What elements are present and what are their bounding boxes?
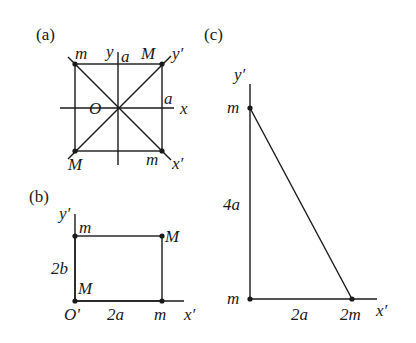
panel-a-half-side-x: a — [164, 89, 173, 108]
panel-c-x-prime-label: x′ — [375, 301, 388, 320]
panel-a-mass-label-bottom-left: M — [67, 155, 83, 174]
panel-a-x-label: x — [179, 99, 188, 118]
panel-c-hypotenuse — [250, 108, 352, 299]
panel-c: (c) y′ m 4a m 2a 2m x′ — [204, 25, 388, 324]
panel-a-mass-top-right — [159, 61, 164, 66]
panel-b-mass-label-top-right: M — [164, 227, 180, 246]
panel-c-width-label: 2a — [291, 305, 308, 324]
panel-a-x-prime-label: x′ — [171, 154, 184, 173]
diagram-canvas: (a) m y a M y′ O a x M m x′ (b) — [0, 0, 416, 343]
panel-c-mass-label-right: 2m — [340, 305, 361, 324]
panel-b-mass-top-left — [72, 233, 77, 238]
panel-c-mass-label-origin: m — [227, 289, 239, 308]
panel-a-mass-label-top-left: m — [75, 44, 87, 63]
panel-b-mass-label-top-left: m — [79, 218, 91, 237]
panel-a-label: (a) — [36, 25, 55, 44]
panel-a-mass-label-bottom-right: m — [146, 150, 158, 169]
panel-a-y-prime-label: y′ — [170, 44, 184, 63]
panel-a-origin-label: O — [89, 99, 101, 118]
panel-b-mass-label-bottom-left: M — [77, 279, 93, 298]
panel-c-mass-top — [247, 105, 252, 110]
panel-c-mass-origin — [247, 296, 252, 301]
panel-b-x-prime-label: x′ — [183, 305, 196, 324]
panel-b: (b) y′ m M 2b M O' 2a m x′ — [29, 187, 196, 324]
panel-b-y-prime-label: y′ — [57, 204, 71, 223]
panel-c-y-prime-label: y′ — [232, 65, 246, 84]
panel-a: (a) m y a M y′ O a x M m x′ — [36, 25, 188, 174]
panel-a-y-label: y — [104, 42, 114, 61]
panel-b-label: (b) — [29, 187, 49, 206]
panel-b-origin-label: O' — [64, 305, 80, 324]
panel-c-mass-right — [349, 296, 354, 301]
panel-b-mass-bottom-left — [72, 298, 77, 303]
panel-c-mass-label-top: m — [227, 98, 239, 117]
panel-a-mass-bottom-left — [72, 148, 77, 153]
panel-a-mass-bottom-right — [159, 148, 164, 153]
panel-a-mass-label-top-right: M — [140, 44, 156, 63]
panel-b-width-label: 2a — [107, 305, 124, 324]
panel-b-mass-label-bottom-right: m — [154, 305, 166, 324]
panel-b-mass-bottom-right — [159, 298, 164, 303]
panel-a-half-side-y: a — [121, 47, 130, 66]
panel-c-label: (c) — [204, 25, 223, 44]
panel-b-mass-top-right — [159, 233, 164, 238]
panel-b-height-label: 2b — [51, 259, 68, 278]
panel-c-height-label: 4a — [223, 195, 240, 214]
